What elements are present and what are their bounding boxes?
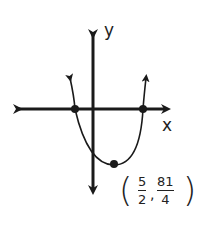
- close-paren: ): [183, 173, 196, 207]
- vertex-x-fraction: 5 2: [138, 175, 146, 206]
- y-axis-label: y: [104, 20, 114, 40]
- vertex-x-denominator: 2: [138, 193, 146, 206]
- fraction-bar: [157, 190, 174, 191]
- x-intercept-right-point: [139, 105, 147, 113]
- comma: ,: [150, 186, 154, 202]
- vertex-y-fraction: 81 4: [157, 175, 174, 206]
- x-intercept-left-point: [71, 105, 79, 113]
- vertex-point: [110, 160, 118, 168]
- vertex-y-denominator: 4: [161, 193, 169, 206]
- x-axis-label: x: [162, 115, 172, 135]
- fraction-bar: [138, 190, 146, 191]
- vertex-y-numerator: 81: [157, 175, 174, 188]
- vertex-x-numerator: 5: [138, 175, 146, 188]
- open-paren: (: [119, 173, 132, 207]
- parabola-curve: [70, 78, 146, 165]
